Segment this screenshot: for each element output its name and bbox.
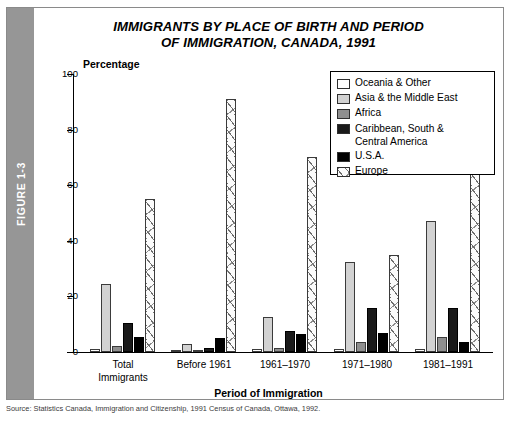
legend-item-label: Asia & the Middle East <box>355 92 458 104</box>
bar <box>134 337 144 352</box>
figure-spine: FIGURE 1-3 <box>7 8 34 399</box>
bar-group <box>171 74 237 352</box>
legend-swatch-icon <box>337 152 350 162</box>
bar <box>334 349 344 352</box>
x-axis-category-label: 1981–1991 <box>401 358 495 371</box>
legend-swatch-icon <box>337 109 350 119</box>
figure-number-label: FIGURE 1-3 <box>11 144 31 244</box>
x-axis-category-label-line: 1981–1991 <box>401 358 495 371</box>
legend-item: U.S.A. <box>337 150 488 164</box>
x-axis-category-label: 1971–1980 <box>320 358 414 371</box>
legend-item-label: U.S.A. <box>355 150 384 162</box>
x-axis-category-label-line: Immigrants <box>76 371 170 384</box>
bar <box>378 333 388 352</box>
legend-item-label: Oceania & Other <box>355 77 431 89</box>
chart-legend: Oceania & OtherAsia & the Middle EastAfr… <box>330 71 495 175</box>
bar <box>274 348 284 352</box>
x-axis-category-label-line: Before 1961 <box>157 358 251 371</box>
legend-item: Oceania & Other <box>337 77 488 91</box>
legend-item: Caribbean, South & Central America <box>337 122 488 149</box>
legend-item: Europe <box>337 165 488 179</box>
bar <box>415 349 425 352</box>
bar-group <box>252 74 318 352</box>
bar <box>263 317 273 352</box>
bar <box>90 349 100 352</box>
bar <box>356 342 366 352</box>
bar <box>193 350 203 352</box>
bar <box>204 348 214 352</box>
legend-item-label: Europe <box>355 165 388 177</box>
bar <box>345 262 355 352</box>
legend-swatch-icon <box>337 79 350 89</box>
bar <box>459 342 469 352</box>
x-axis-category-label-line: Total <box>76 358 170 371</box>
x-axis-category-label-line: 1971–1980 <box>320 358 414 371</box>
bar <box>171 350 181 352</box>
bar-group <box>90 74 156 352</box>
x-axis-title: Period of Immigration <box>34 387 503 399</box>
bar <box>389 255 399 352</box>
bar <box>145 199 155 352</box>
bar <box>123 323 133 352</box>
x-axis-category-label-line: 1961–1970 <box>238 358 332 371</box>
x-axis-category-label: 1961–1970 <box>238 358 332 371</box>
legend-item: Africa <box>337 107 488 121</box>
bar <box>252 349 262 352</box>
bar <box>101 284 111 352</box>
bar <box>448 308 458 352</box>
chart-card: IMMIGRANTS BY PLACE OF BIRTH AND PERIOD … <box>34 8 503 399</box>
x-axis-category-label: TotalImmigrants <box>76 358 170 384</box>
bar <box>112 346 122 352</box>
legend-swatch-icon <box>337 94 350 104</box>
x-axis-category-label: Before 1961 <box>157 358 251 371</box>
legend-item-label: Africa <box>355 107 381 119</box>
bar <box>296 334 306 352</box>
bar <box>470 157 480 352</box>
bar <box>226 99 236 352</box>
bars-layer <box>34 8 503 399</box>
bar <box>426 221 436 352</box>
bar <box>182 344 192 352</box>
bar <box>307 157 317 352</box>
bar <box>437 337 447 352</box>
figure-screenshot: FIGURE 1-3 IMMIGRANTS BY PLACE OF BIRTH … <box>0 0 512 421</box>
bar <box>285 331 295 352</box>
legend-item: Asia & the Middle East <box>337 92 488 106</box>
bar <box>215 338 225 352</box>
legend-item-label: Caribbean, South & Central America <box>355 122 444 148</box>
legend-swatch-icon <box>337 124 350 134</box>
plot-area: Percentage 020406080100 TotalImmigrantsB… <box>34 8 503 399</box>
figure-source-caption: Source: Statistics Canada, Immigration a… <box>6 404 506 418</box>
legend-swatch-icon <box>337 167 350 177</box>
bar <box>367 308 377 352</box>
